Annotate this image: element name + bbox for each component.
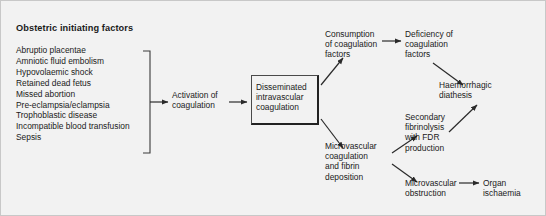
node-organ-ischaemia: Organ ischaemia bbox=[483, 178, 539, 198]
node-disseminated-intravascular-coagulation-box: Disseminated intravascular coagulation bbox=[251, 75, 319, 125]
list-item: Missed abortion bbox=[16, 89, 130, 100]
arrow-dic-to-consumption bbox=[321, 58, 343, 85]
node-haemorrhagic-diathesis: Haemorrhagic diathesis bbox=[439, 80, 505, 100]
list-item: Trophoblastic disease bbox=[16, 110, 130, 121]
node-deficiency-of-coagulation-factors: Deficiency of coagulation factors bbox=[405, 29, 467, 60]
node-activation-of-coagulation: Activation of coagulation bbox=[172, 90, 232, 110]
factors-bracket bbox=[143, 51, 150, 153]
node-dic-label: Disseminated intravascular coagulation bbox=[256, 82, 318, 113]
diagram-title: Obstetric initiating factors bbox=[16, 23, 133, 33]
node-secondary-fibrinolysis-fdr-production: Secondary fibrinolysis with FDR producti… bbox=[405, 112, 467, 153]
list-item: Retained dead fetus bbox=[16, 78, 130, 89]
obstetric-factor-list: Abruptio placentae Amniotic fluid emboli… bbox=[16, 45, 130, 143]
list-item: Pre-eclampsia/eclampsia bbox=[16, 100, 130, 111]
list-item: Hypovolaemic shock bbox=[16, 67, 130, 78]
list-item: Incompatible blood transfusion bbox=[16, 121, 130, 132]
dic-pathophysiology-diagram: Obstetric initiating factors Abruptio pl… bbox=[0, 0, 546, 216]
list-item: Sepsis bbox=[16, 132, 130, 143]
node-microvascular-coagulation-fibrin-deposition: Microvascular coagulation and fibrin dep… bbox=[325, 141, 391, 182]
node-microvascular-obstruction: Microvascular obstruction bbox=[405, 178, 467, 198]
list-item: Amniotic fluid embolism bbox=[16, 56, 130, 67]
list-item: Abruptio placentae bbox=[16, 45, 130, 56]
node-consumption-of-coagulation-factors: Consumption of coagulation factors bbox=[325, 29, 389, 60]
